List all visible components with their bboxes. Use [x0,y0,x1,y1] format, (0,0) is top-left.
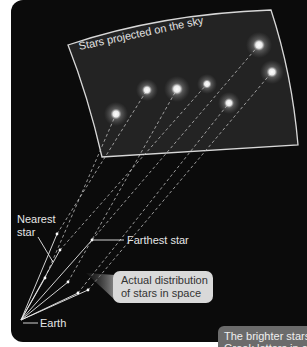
callout-line2: of stars in space [121,287,213,300]
earth-label: Earth [40,317,66,330]
actual-star-dots [44,233,94,295]
actual-distribution-callout: Actual distribution of stars in space [113,271,213,303]
caption-line1: The brighter stars [224,330,307,342]
nearest-star-label-line2: star [17,226,56,239]
farthest-star-label: Farthest star [127,234,189,247]
sightlines-from-earth [21,234,92,320]
callout-pointer [86,273,115,300]
caption-line2: Greek letters in o [224,342,307,347]
nearest-star-label: Nearest star [17,213,56,239]
nearest-star-label-line1: Nearest [17,213,56,226]
callout-line1: Actual distribution [121,274,213,287]
caption-box: The brighter stars Greek letters in o [218,326,307,347]
